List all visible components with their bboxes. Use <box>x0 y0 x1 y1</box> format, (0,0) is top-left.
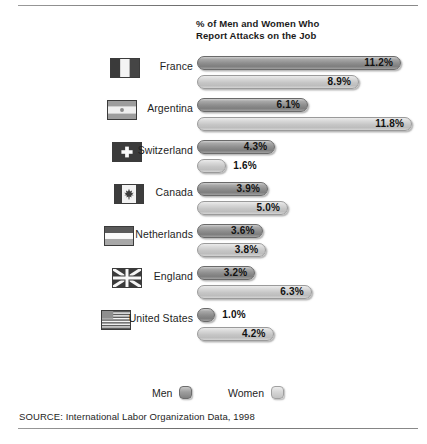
chart-figure: % of Men and Women Who Report Attacks on… <box>0 0 427 444</box>
legend-swatch-women <box>271 386 284 399</box>
top-divider-rule <box>18 5 418 6</box>
bar-value-label-men: 11.2% <box>357 57 393 68</box>
bar-value-label-men: 3.6% <box>219 225 255 236</box>
country-label: Canada <box>0 186 193 198</box>
bar-value-label-men: 1.0% <box>222 309 246 320</box>
bar-women <box>197 159 226 173</box>
bar-value-label-women: 3.8% <box>222 244 258 255</box>
chart-row: England3.2%6.3% <box>0 265 427 307</box>
bar-value-label-men: 4.3% <box>231 141 267 152</box>
legend-item-women: Women <box>228 386 284 399</box>
bar-value-label-women: 1.6% <box>233 160 257 171</box>
bar-value-label-men: 3.9% <box>224 183 260 194</box>
bar-value-label-women: 8.9% <box>315 76 351 87</box>
chart-row: United States1.0%4.2% <box>0 307 427 349</box>
bar-value-label-women: 5.0% <box>244 202 280 213</box>
legend-label-women: Women <box>228 387 264 399</box>
country-label: France <box>0 60 193 72</box>
legend-swatch-men <box>179 386 192 399</box>
bar-men <box>197 308 215 322</box>
country-label: Netherlands <box>0 228 193 240</box>
bar-value-label-men: 3.2% <box>211 267 247 278</box>
source-note: SOURCE: International Labor Organization… <box>19 411 255 422</box>
bar-value-label-women: 6.3% <box>268 286 304 297</box>
legend-item-men: Men <box>152 386 192 399</box>
chart-row: Netherlands3.6%3.8% <box>0 223 427 265</box>
bar-value-label-women: 11.8% <box>368 118 404 129</box>
bottom-divider-rule <box>18 428 418 429</box>
country-label: England <box>0 270 193 282</box>
legend-label-men: Men <box>152 387 172 399</box>
chart-row: Argentina6.1%11.8% <box>0 97 427 139</box>
chart-row: France11.2%8.9% <box>0 55 427 97</box>
chart-rows: France11.2%8.9%Argentina6.1%11.8%Switzer… <box>0 55 427 349</box>
country-label: United States <box>0 312 193 324</box>
chart-title: % of Men and Women Who Report Attacks on… <box>196 18 396 42</box>
country-label: Argentina <box>0 102 193 114</box>
chart-row: Canada3.9%5.0% <box>0 181 427 223</box>
bar-value-label-women: 4.2% <box>230 328 266 339</box>
chart-row: Switzerland4.3%1.6% <box>0 139 427 181</box>
chart-title-line-2: Report Attacks on the Job <box>196 30 396 42</box>
country-label: Switzerland <box>0 144 193 156</box>
chart-title-line-1: % of Men and Women Who <box>196 18 396 30</box>
bar-value-label-men: 6.1% <box>264 99 300 110</box>
